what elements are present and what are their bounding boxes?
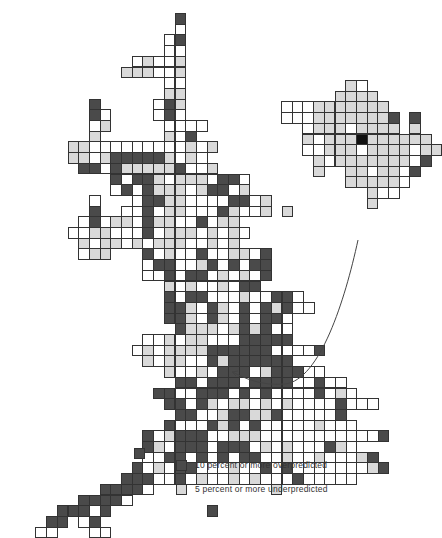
map-cell [57,516,69,528]
legend-label: 10 percent or more overpredicted [195,460,327,470]
legend: 10 percent or more overpredicted 5 perce… [176,458,328,506]
legend-label: 5 percent or more underpredicted [195,484,328,494]
legend-item-underpredicted: 5 percent or more underpredicted [176,482,328,496]
legend-item-overpredicted: 10 percent or more overpredicted [176,458,328,472]
map-cell [100,527,112,538]
map-cell [46,527,58,538]
underpredicted-swatch [176,484,187,495]
map-cell [431,144,442,156]
overpredicted-swatch [176,460,187,471]
